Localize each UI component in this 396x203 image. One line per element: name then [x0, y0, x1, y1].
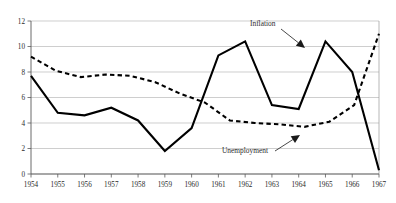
x-tick-label: 1963 — [265, 181, 280, 189]
x-tick-label: 1965 — [318, 181, 333, 189]
annotation-label-unemployment: Unemployment — [222, 146, 269, 155]
x-tick-label: 1956 — [77, 181, 92, 189]
x-tick-label: 1957 — [104, 181, 119, 189]
y-tick-label: 8 — [21, 69, 25, 77]
x-tick-label: 1958 — [131, 181, 146, 189]
annotation-label-inflation: Inflation — [250, 19, 276, 28]
x-tick-label: 1955 — [51, 181, 66, 189]
x-tick-label: 1960 — [184, 181, 199, 189]
x-tick-label: 1961 — [211, 181, 226, 189]
x-axis-ticks: 1954195519561957195819591960196119621963… — [24, 174, 387, 189]
x-tick-label: 1964 — [292, 181, 307, 189]
y-tick-label: 2 — [21, 145, 25, 153]
y-tick-label: 4 — [21, 120, 25, 128]
y-tick-label: 12 — [18, 18, 26, 26]
y-tick-label: 10 — [18, 43, 26, 51]
y-tick-label: 0 — [21, 171, 25, 179]
x-tick-label: 1966 — [345, 181, 360, 189]
y-axis-ticks: 024681012 — [18, 18, 31, 179]
x-tick-label: 1962 — [238, 181, 253, 189]
chart-container: 024681012 195419551956195719581959196019… — [0, 0, 396, 203]
x-tick-label: 1959 — [158, 181, 173, 189]
y-tick-label: 6 — [21, 94, 25, 102]
x-tick-label: 1967 — [372, 181, 387, 189]
line-chart: 024681012 195419551956195719581959196019… — [0, 0, 396, 203]
x-tick-label: 1954 — [24, 181, 39, 189]
